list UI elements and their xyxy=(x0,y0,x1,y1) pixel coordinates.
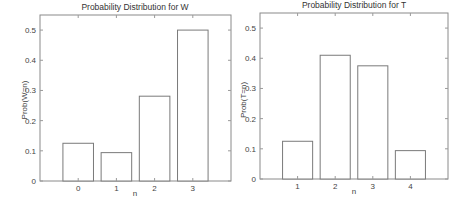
y-tick-label: 0.5 xyxy=(25,26,37,35)
bar-2 xyxy=(320,55,350,179)
x-tick-label: 0 xyxy=(76,184,81,193)
bar-2 xyxy=(139,96,170,181)
y-tick-label: 0.2 xyxy=(25,117,37,126)
chart-t: Probability Distribution for T n Prob(T=… xyxy=(239,0,448,196)
x-tick-label: 2 xyxy=(152,184,157,193)
bar-4 xyxy=(395,151,425,179)
x-axis-label: n xyxy=(352,187,356,196)
y-tick-label: 0 xyxy=(32,177,37,186)
y-tick-label: 0.1 xyxy=(25,147,37,156)
bar-1 xyxy=(283,141,313,179)
y-tick-label: 0.4 xyxy=(25,56,37,65)
chart-title: Probability Distribution for T xyxy=(302,0,406,10)
x-tick-label: 1 xyxy=(295,182,300,191)
y-tick-label: 0.3 xyxy=(245,84,257,93)
y-tick-label: 0.4 xyxy=(245,54,257,63)
y-tick-label: 0.5 xyxy=(245,24,257,33)
y-tick-label: 0.2 xyxy=(245,115,257,124)
x-tick-label: 4 xyxy=(408,182,413,191)
bar-3 xyxy=(358,66,388,179)
x-tick-label: 3 xyxy=(191,184,196,193)
chart-w: Probability Distribution for W n Prob(W=… xyxy=(20,2,231,198)
bar-1 xyxy=(101,153,132,181)
figure: Probability Distribution for W n Prob(W=… xyxy=(0,0,470,201)
chart-title: Probability Distribution for W xyxy=(81,2,188,12)
y-tick-label: 0 xyxy=(252,175,257,184)
x-tick-label: 3 xyxy=(371,182,376,191)
y-tick-label: 0.3 xyxy=(25,86,37,95)
bar-3 xyxy=(178,30,209,181)
x-axis-label: n xyxy=(133,189,137,198)
y-tick-label: 0.1 xyxy=(245,145,257,154)
x-tick-label: 1 xyxy=(114,184,119,193)
x-tick-label: 2 xyxy=(333,182,338,191)
bar-0 xyxy=(63,143,94,181)
